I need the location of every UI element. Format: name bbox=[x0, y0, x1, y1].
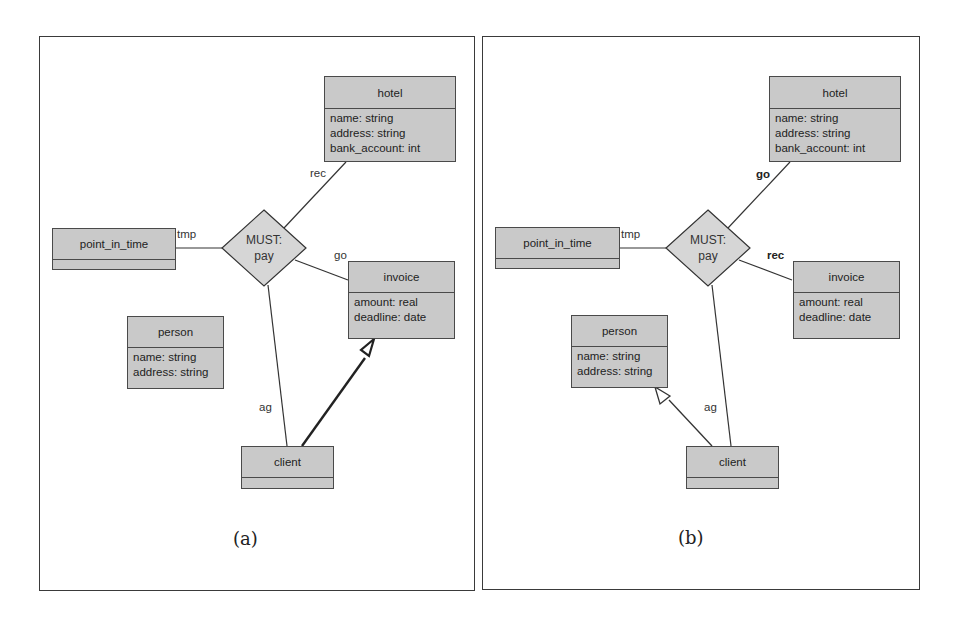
class-name: person bbox=[572, 316, 667, 347]
class-attributes: name: string address: string bank_accoun… bbox=[325, 109, 455, 156]
role-label-invoice-b: rec bbox=[767, 249, 784, 261]
role-label-tmp-b: tmp bbox=[621, 228, 640, 240]
class-hotel-a: hotel name: string address: string bank_… bbox=[324, 76, 456, 162]
class-attributes: amount: real deadline: date bbox=[794, 293, 899, 325]
class-name: point_in_time bbox=[53, 229, 175, 260]
caption-a: (a) bbox=[233, 528, 258, 549]
role-label-invoice-a: go bbox=[334, 249, 347, 261]
class-hotel-b: hotel name: string address: string bank_… bbox=[769, 76, 901, 162]
role-label-tmp-a: tmp bbox=[177, 228, 196, 240]
class-attributes: name: string address: string bbox=[572, 347, 667, 379]
class-point-in-time-a: point_in_time bbox=[52, 228, 176, 270]
relationship-label-a: MUST: pay bbox=[229, 232, 299, 264]
relationship-label-b: MUST: pay bbox=[673, 232, 743, 264]
role-label-client-a: ag bbox=[259, 401, 272, 413]
class-invoice-b: invoice amount: real deadline: date bbox=[793, 261, 900, 339]
class-name: hotel bbox=[325, 77, 455, 109]
class-name: client bbox=[687, 447, 778, 478]
class-name: invoice bbox=[349, 262, 454, 293]
caption-b: (b) bbox=[678, 527, 704, 548]
class-attributes: name: string address: string bbox=[128, 348, 223, 380]
class-point-in-time-b: point_in_time bbox=[495, 227, 620, 269]
class-person-a: person name: string address: string bbox=[127, 316, 224, 389]
class-client-a: client bbox=[241, 446, 334, 489]
class-person-b: person name: string address: string bbox=[571, 315, 668, 388]
class-name: client bbox=[242, 447, 333, 478]
class-attributes: amount: real deadline: date bbox=[349, 293, 454, 325]
class-name: invoice bbox=[794, 262, 899, 293]
role-label-hotel-a: rec bbox=[310, 167, 326, 179]
class-name: hotel bbox=[770, 77, 900, 109]
class-invoice-a: invoice amount: real deadline: date bbox=[348, 261, 455, 339]
class-client-b: client bbox=[686, 446, 779, 489]
role-label-client-b: ag bbox=[704, 401, 717, 413]
class-attributes: name: string address: string bank_accoun… bbox=[770, 109, 900, 156]
role-label-hotel-b: go bbox=[756, 168, 770, 180]
class-name: person bbox=[128, 317, 223, 348]
class-name: point_in_time bbox=[496, 228, 619, 259]
